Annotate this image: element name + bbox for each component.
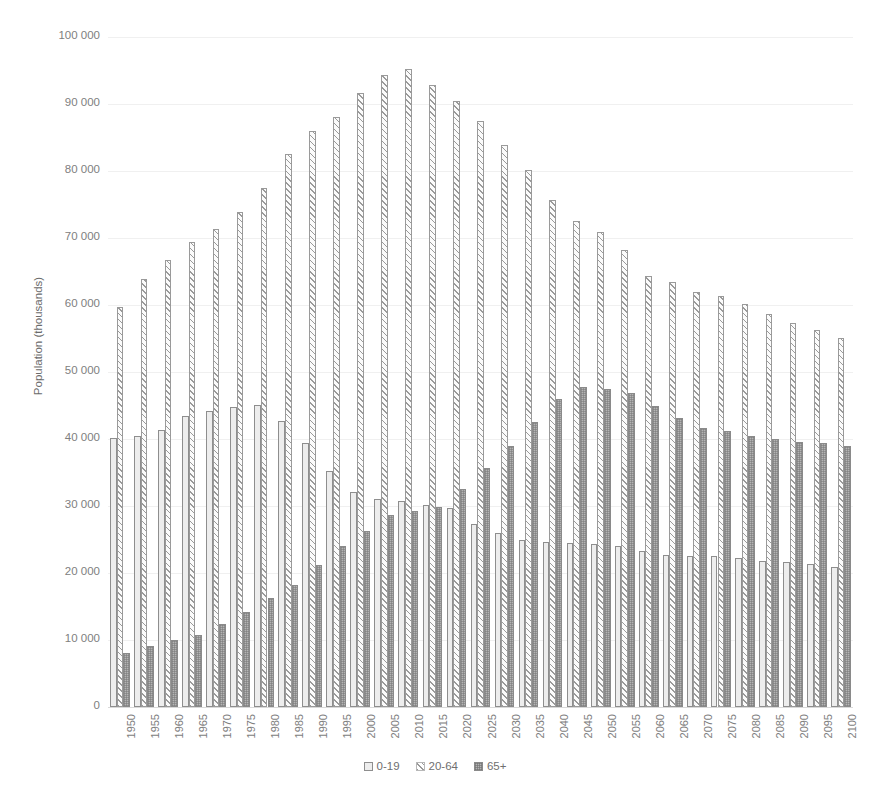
bar-65plus-2015[interactable] — [436, 507, 443, 707]
bar-0-19-1970[interactable] — [206, 411, 213, 707]
bar-20-64-1980[interactable] — [261, 188, 268, 707]
bar-65plus-2065[interactable] — [676, 418, 683, 707]
bar-20-64-2005[interactable] — [381, 75, 388, 707]
bar-20-64-1965[interactable] — [189, 242, 196, 707]
bar-20-64-2020[interactable] — [453, 101, 460, 707]
bar-20-64-2090[interactable] — [790, 323, 797, 707]
bar-65plus-2060[interactable] — [652, 406, 659, 708]
bar-65plus-2085[interactable] — [772, 439, 779, 707]
bar-0-19-2010[interactable] — [398, 501, 405, 707]
bar-65plus-1965[interactable] — [195, 635, 202, 707]
bar-65plus-2035[interactable] — [532, 422, 539, 707]
bar-65plus-2025[interactable] — [484, 468, 491, 707]
y-axis-title: Population (thousands) — [32, 236, 44, 436]
bar-0-19-2040[interactable] — [543, 542, 550, 707]
bar-65plus-2020[interactable] — [460, 489, 467, 707]
bar-0-19-2090[interactable] — [783, 562, 790, 707]
bar-20-64-2025[interactable] — [477, 121, 484, 707]
bar-65plus-1975[interactable] — [243, 612, 250, 707]
bar-20-64-1995[interactable] — [333, 117, 340, 707]
bar-20-64-1950[interactable] — [117, 307, 124, 707]
bar-0-19-2095[interactable] — [807, 564, 814, 707]
bar-65plus-1960[interactable] — [171, 640, 178, 707]
bar-20-64-1970[interactable] — [213, 229, 220, 707]
bar-20-64-2075[interactable] — [718, 296, 725, 707]
bar-65plus-2000[interactable] — [364, 531, 371, 707]
bar-20-64-2085[interactable] — [766, 314, 773, 707]
bar-0-19-2060[interactable] — [639, 551, 646, 707]
bar-20-64-2095[interactable] — [814, 330, 821, 707]
bar-65plus-2100[interactable] — [844, 446, 851, 707]
bar-20-64-2000[interactable] — [357, 93, 364, 707]
bar-65plus-1985[interactable] — [292, 585, 299, 707]
bar-0-19-2065[interactable] — [663, 555, 670, 707]
x-axis-tick-label-2020: 2020 — [461, 714, 473, 738]
bar-65plus-2050[interactable] — [604, 389, 611, 707]
bar-20-64-1960[interactable] — [165, 260, 172, 707]
bar-20-64-2100[interactable] — [838, 338, 845, 707]
bar-65plus-2045[interactable] — [580, 387, 587, 707]
bar-20-64-2050[interactable] — [597, 232, 604, 707]
bar-0-19-2000[interactable] — [350, 492, 357, 707]
bar-20-64-1985[interactable] — [285, 154, 292, 707]
bar-0-19-2070[interactable] — [687, 556, 694, 707]
bar-0-19-2080[interactable] — [735, 558, 742, 707]
bar-0-19-1965[interactable] — [182, 416, 189, 707]
bar-0-19-2100[interactable] — [831, 567, 838, 707]
legend-item-65plus[interactable]: 65+ — [474, 760, 507, 772]
bar-65plus-2030[interactable] — [508, 446, 515, 707]
bar-0-19-2050[interactable] — [591, 544, 598, 707]
bar-0-19-2075[interactable] — [711, 556, 718, 707]
bar-65plus-2010[interactable] — [412, 511, 419, 707]
bar-0-19-1975[interactable] — [230, 407, 237, 707]
bar-20-64-2040[interactable] — [549, 200, 556, 707]
bar-20-64-1990[interactable] — [309, 131, 316, 707]
bar-65plus-1980[interactable] — [268, 598, 275, 707]
bar-0-19-1960[interactable] — [158, 430, 165, 707]
bar-65plus-2040[interactable] — [556, 399, 563, 707]
bar-0-19-1995[interactable] — [326, 471, 333, 708]
bar-20-64-2060[interactable] — [645, 276, 652, 707]
bar-20-64-2070[interactable] — [693, 292, 700, 707]
bar-20-64-1955[interactable] — [141, 279, 148, 707]
bar-65plus-1990[interactable] — [316, 565, 323, 707]
bar-20-64-2030[interactable] — [501, 145, 508, 707]
bar-0-19-1985[interactable] — [278, 421, 285, 707]
bar-0-19-2030[interactable] — [495, 533, 502, 707]
bar-0-19-2045[interactable] — [567, 543, 574, 707]
bar-0-19-2015[interactable] — [423, 505, 430, 707]
bar-20-64-2035[interactable] — [525, 170, 532, 707]
bar-0-19-2035[interactable] — [519, 540, 526, 708]
bar-0-19-1980[interactable] — [254, 405, 261, 707]
bar-20-64-2045[interactable] — [573, 221, 580, 707]
bar-0-19-2025[interactable] — [471, 524, 478, 707]
legend-item-0-19[interactable]: 0-19 — [364, 760, 400, 772]
bar-65plus-1955[interactable] — [147, 646, 154, 707]
bar-0-19-2055[interactable] — [615, 546, 622, 707]
bar-group — [565, 37, 589, 707]
y-axis-tick-label: 20 000 — [36, 565, 100, 577]
bar-0-19-2085[interactable] — [759, 561, 766, 707]
bar-0-19-1955[interactable] — [134, 436, 141, 707]
bar-20-64-2055[interactable] — [621, 250, 628, 707]
bar-65plus-2005[interactable] — [388, 515, 395, 707]
bar-20-64-2080[interactable] — [742, 304, 749, 707]
bar-65plus-2090[interactable] — [796, 442, 803, 707]
bar-0-19-1950[interactable] — [110, 438, 117, 707]
bar-65plus-1950[interactable] — [123, 653, 130, 707]
bar-20-64-2015[interactable] — [429, 85, 436, 707]
bar-65plus-1970[interactable] — [219, 624, 226, 707]
bar-65plus-2055[interactable] — [628, 393, 635, 707]
bar-20-64-1975[interactable] — [237, 212, 244, 707]
bar-20-64-2065[interactable] — [669, 282, 676, 707]
bar-65plus-1995[interactable] — [340, 546, 347, 707]
bar-20-64-2010[interactable] — [405, 69, 412, 707]
legend-item-20-64[interactable]: 20-64 — [416, 760, 458, 772]
bar-65plus-2070[interactable] — [700, 428, 707, 707]
bar-0-19-2005[interactable] — [374, 499, 381, 707]
bar-65plus-2095[interactable] — [820, 443, 827, 707]
bar-65plus-2080[interactable] — [748, 436, 755, 707]
bar-0-19-1990[interactable] — [302, 443, 309, 707]
bar-0-19-2020[interactable] — [447, 508, 454, 707]
bar-65plus-2075[interactable] — [724, 431, 731, 707]
